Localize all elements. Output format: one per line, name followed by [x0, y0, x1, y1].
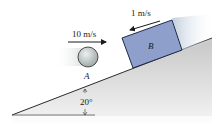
ball-a: [78, 47, 98, 67]
angle-label: 20°: [80, 97, 93, 107]
block-velocity-label: 1 m/s: [131, 8, 151, 18]
incline-ground: [12, 38, 212, 123]
ground-fade: [0, 116, 218, 123]
ball-a-label: A: [83, 71, 90, 81]
incline-diagram: 20° A 10 m/s B 1 m/s: [0, 0, 218, 123]
block-b-label: B: [148, 41, 154, 51]
ball-velocity-label: 10 m/s: [72, 29, 97, 39]
